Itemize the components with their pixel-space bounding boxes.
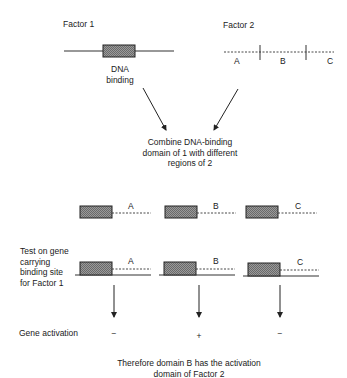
activation-result-b: + xyxy=(191,331,207,342)
hybrid-b xyxy=(165,206,236,218)
hybrid-a-label: A xyxy=(128,201,134,212)
test-description: Test on gene carrying binding site for F… xyxy=(20,246,69,288)
bound-hybrid-a xyxy=(75,262,151,275)
bound-hybrid-c xyxy=(243,263,319,276)
bound-b-label: B xyxy=(213,256,219,267)
conclusion-text: Therefore domain B has the activation do… xyxy=(104,358,274,378)
factor2-protein xyxy=(224,45,334,60)
factor2-label: Factor 2 xyxy=(223,20,254,31)
hybrid-b-label: B xyxy=(213,201,219,212)
combine-instruction: Combine DNA-binding domain of 1 with dif… xyxy=(120,137,260,169)
arrow-from-factor2 xyxy=(214,89,238,130)
gene-activation-label: Gene activation xyxy=(19,328,78,339)
bound-hybrid-b xyxy=(159,262,235,275)
diagram-canvas xyxy=(0,0,347,378)
factor1-label: Factor 1 xyxy=(63,19,94,30)
hybrid-c-label: C xyxy=(295,201,301,212)
activation-result-c: − xyxy=(272,328,288,339)
dna-binding-domain-box xyxy=(103,45,135,57)
hybrid-c xyxy=(246,206,317,218)
activation-result-a: − xyxy=(106,328,122,339)
bound-c-label: C xyxy=(297,257,303,268)
factor1-protein xyxy=(64,45,174,57)
factor2-region-c-label: C xyxy=(327,56,333,67)
factor2-region-a-label: A xyxy=(234,56,240,67)
arrow-from-factor1 xyxy=(143,88,166,130)
dna-binding-label: DNA binding xyxy=(99,64,141,85)
bound-a-label: A xyxy=(128,256,134,267)
hybrid-a xyxy=(80,206,151,218)
factor2-region-b-label: B xyxy=(280,56,286,67)
